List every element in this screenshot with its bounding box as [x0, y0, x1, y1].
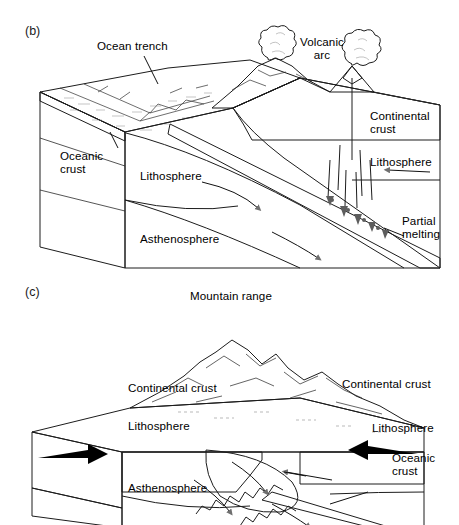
label-continental-crust: Continental crust [370, 110, 430, 135]
panel-b-diagram [0, 0, 459, 275]
label-continental-crust-left: Continental crust [128, 382, 217, 395]
label-partial-melting: Partial melting [402, 215, 440, 240]
label-oceanic-crust-c: Oceanic crust [392, 452, 435, 477]
label-mountain-range: Mountain range [190, 290, 272, 303]
label-lithosphere-right-c: Lithosphere [372, 422, 434, 435]
label-lithosphere-right: Lithosphere [370, 156, 432, 169]
label-ocean-trench: Ocean trench [97, 40, 168, 53]
label-lithosphere-left-c: Lithosphere [128, 420, 190, 433]
label-oceanic-crust: Oceanic crust [60, 150, 103, 175]
label-asthenosphere-c: Asthenosphere [128, 482, 207, 495]
label-lithosphere-left: Lithosphere [140, 170, 202, 183]
panel-c-diagram [0, 280, 459, 525]
label-continental-crust-right: Continental crust [342, 378, 431, 391]
label-asthenosphere: Asthenosphere [140, 233, 219, 246]
label-volcanic-arc: Volcanic arc [286, 36, 358, 61]
